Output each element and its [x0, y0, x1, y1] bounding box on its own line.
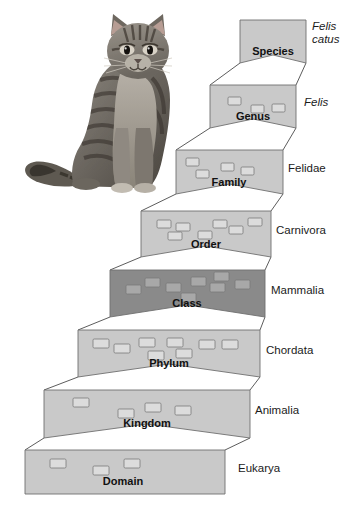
taxonomy-hierarchy-diagram: SpeciesFeliscatusGenusFelisFamilyFelidae…: [0, 0, 351, 506]
levels-layer: SpeciesFeliscatusGenusFelisFamilyFelidae…: [25, 20, 340, 494]
taxon-name-line: Felis: [312, 20, 337, 32]
rank-name-label: Kingdom: [123, 417, 171, 429]
taxon-name-label: Feliscatus: [312, 20, 340, 45]
taxonomy-level-kingdom[interactable]: KingdomAnimalia: [44, 390, 300, 438]
taxonomy-level-species[interactable]: SpeciesFeliscatus: [240, 20, 340, 63]
taxon-name-line: Mammalia: [271, 284, 325, 296]
taxonomy-level-class[interactable]: ClassMammalia: [110, 270, 325, 317]
taxonomy-level-order[interactable]: OrderCarnivora: [141, 211, 326, 257]
organism-glyph: [241, 167, 254, 175]
taxon-name-label: Felidae: [288, 162, 326, 174]
taxon-name-label: Animalia: [255, 404, 300, 416]
level-connector-line: [260, 317, 265, 330]
taxon-name-label: Mammalia: [271, 284, 325, 296]
organism-glyph: [213, 220, 227, 228]
organism-glyph: [248, 218, 262, 226]
rank-funnel-shape: [44, 390, 250, 438]
organism-glyph: [139, 338, 155, 347]
rank-funnel-shape: [78, 330, 260, 377]
level-connector-line: [296, 63, 306, 85]
organism-glyph: [176, 223, 190, 231]
organism-glyph: [175, 406, 191, 415]
taxon-name-label: Carnivora: [276, 224, 326, 236]
organism-glyph: [157, 220, 171, 228]
rank-name-label: Species: [252, 45, 294, 57]
taxonomy-figure: SpeciesFeliscatusGenusFelisFamilyFelidae…: [0, 0, 351, 506]
organism-glyph: [272, 104, 285, 112]
level-connector-line: [225, 438, 250, 450]
organism-glyph: [186, 158, 199, 166]
organism-glyph: [191, 277, 206, 286]
rank-name-label: Class: [172, 297, 201, 309]
level-connector-line: [110, 257, 141, 270]
organism-glyph: [199, 340, 215, 349]
level-connector-line: [265, 257, 271, 270]
level-connector-line: [78, 317, 110, 330]
rank-name-label: Family: [212, 176, 248, 188]
level-connector-line: [25, 438, 44, 450]
taxonomy-level-phylum[interactable]: PhylumChordata: [78, 330, 314, 377]
taxon-name-line: Felis: [304, 96, 329, 108]
taxon-name-line: Animalia: [255, 404, 300, 416]
taxon-name-line: catus: [312, 33, 340, 45]
organism-glyph: [114, 344, 130, 353]
taxonomy-level-family[interactable]: FamilyFelidae: [176, 150, 326, 194]
organism-glyph: [93, 339, 109, 348]
organism-glyph: [50, 459, 66, 468]
organism-glyph: [228, 97, 241, 105]
taxon-name-line: Felidae: [288, 162, 326, 174]
taxonomy-level-domain[interactable]: DomainEukarya: [25, 450, 281, 494]
organism-glyph: [126, 285, 141, 294]
taxon-name-label: Chordata: [266, 344, 314, 356]
organism-glyph: [166, 283, 181, 292]
level-connector-line: [271, 194, 283, 211]
rank-name-label: Phylum: [149, 357, 189, 369]
rank-name-label: Genus: [236, 110, 270, 122]
taxon-name-line: Carnivora: [276, 224, 326, 236]
organism-glyph: [235, 280, 250, 289]
organism-glyph: [214, 272, 229, 281]
organism-glyph: [73, 398, 89, 407]
level-connector-line: [250, 377, 260, 390]
organism-glyph: [168, 232, 182, 240]
organism-glyph: [124, 459, 140, 468]
organism-glyph: [229, 226, 243, 234]
level-connector-line: [210, 63, 240, 85]
organism-glyph: [145, 403, 161, 412]
organism-glyph: [222, 340, 238, 349]
taxonomy-level-genus[interactable]: GenusFelis: [210, 85, 329, 128]
organism-glyph: [210, 283, 225, 292]
taxon-name-line: Eukarya: [238, 462, 281, 474]
level-connector-line: [283, 128, 296, 150]
organism-glyph: [93, 466, 109, 475]
taxon-name-line: Chordata: [266, 344, 314, 356]
rank-funnel-shape: [25, 450, 225, 494]
organism-glyph: [221, 163, 234, 171]
organism-glyph: [145, 278, 160, 287]
rank-name-label: Domain: [103, 475, 144, 487]
organism-glyph: [167, 338, 183, 347]
taxon-name-label: Eukarya: [238, 462, 281, 474]
taxon-name-label: Felis: [304, 96, 329, 108]
level-connector-line: [141, 194, 176, 211]
organism-glyph: [196, 170, 209, 178]
level-connector-line: [44, 377, 78, 390]
rank-name-label: Order: [191, 238, 222, 250]
level-connector-line: [176, 128, 210, 150]
